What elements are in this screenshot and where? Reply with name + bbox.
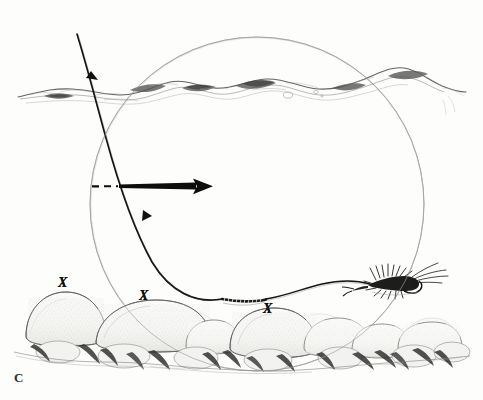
weighted-leader-segment [222,297,266,306]
streambed-cobble [14,292,470,374]
x-mark-right-stone: X [263,302,272,316]
x-mark-left-stone: X [58,276,67,290]
illustration-panel: X X X C [0,0,483,400]
cobble-stone [26,292,106,346]
current-direction-arrow [92,178,213,194]
illustration-canvas [0,0,483,400]
x-mark-center-stone: X [139,289,148,303]
fly-line-direction-tick [86,71,152,221]
fly-line-descending [77,34,223,301]
panel-label: C [14,371,24,384]
water-surface-line [18,68,466,115]
tippet-to-fly [266,281,370,301]
